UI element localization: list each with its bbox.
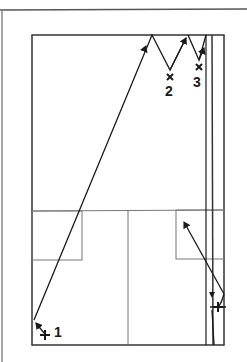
player-1-label: 1: [54, 324, 62, 340]
player-2-label: 2: [165, 83, 173, 99]
right-side-path: [184, 222, 224, 345]
left-box: [32, 211, 82, 260]
offense-plus-icon: [40, 330, 50, 340]
player-2: 2: [165, 74, 173, 99]
page-frame: [0, 9, 247, 362]
drill-diagram: 1 2 3: [0, 0, 247, 362]
defense-x-icon: [167, 74, 173, 80]
player-1-path: [34, 35, 206, 345]
down-arrow-icon: [209, 292, 215, 298]
defense-x-icon: [196, 64, 202, 70]
player-3-label: 3: [193, 74, 201, 90]
player-3: 3: [193, 64, 202, 90]
sideline-inner: [212, 35, 213, 345]
